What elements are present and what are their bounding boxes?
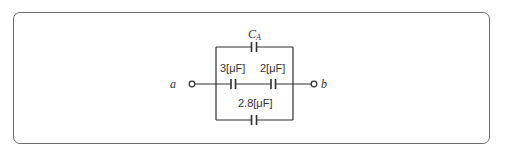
terminal-a-label: a [170,77,176,91]
capacitor-3uf-label: 3[μF] [220,62,245,74]
top-branch [216,42,293,52]
terminal-a: a [170,77,195,91]
terminal-a-circle-icon [189,81,195,87]
capacitor-2-8uf-label: 2.8[μF] [238,97,272,109]
bottom-branch [216,115,293,125]
terminal-b-label: b [321,77,327,91]
capacitor-2uf-symbol [271,79,276,89]
capacitor-ca-label: CA [248,27,261,42]
terminal-b: b [311,77,327,91]
circuit-diagram: a b CA 3[μF] 2[μF] 2.8[μF] [0,0,505,153]
terminal-b-circle-icon [311,81,317,87]
capacitor-ca-symbol [252,42,257,52]
capacitor-2-8uf-symbol [252,115,257,125]
capacitor-3uf-symbol [231,79,236,89]
capacitor-2uf-label: 2[μF] [260,62,285,74]
